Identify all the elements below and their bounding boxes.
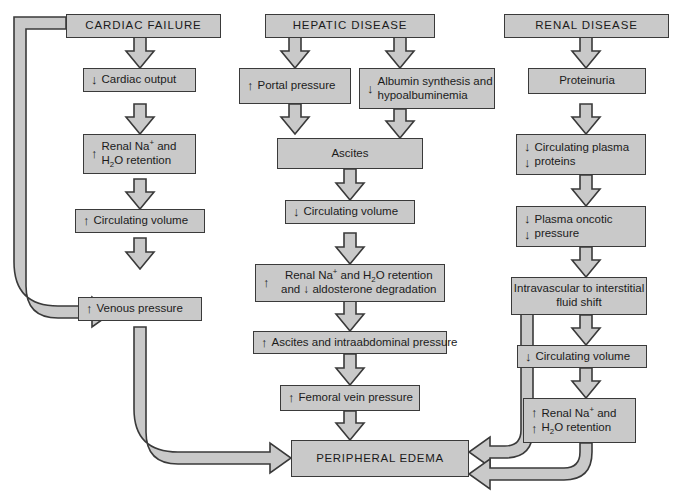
arrow-hepatic-disease-to-albumin-synthesis bbox=[386, 37, 414, 68]
arrow-cardiac-failure-to-cardiac-output bbox=[126, 37, 154, 68]
node-renal-disease[interactable]: RENAL DISEASE bbox=[504, 14, 669, 38]
arrow-portal-pressure-to-ascites bbox=[281, 104, 309, 134]
up-arrow-icon: ↑ bbox=[91, 146, 98, 161]
node-label: Cardiac output bbox=[102, 73, 196, 87]
arrow-circulating-volume-to-venous-pressure bbox=[126, 238, 154, 269]
arrow-renal-na-to-circulating-volume bbox=[126, 179, 154, 209]
node-label: Renal Na+ and H2O retention bbox=[542, 407, 636, 434]
node-venous-pressure[interactable]: ↑ Venous pressure bbox=[78, 297, 202, 321]
node-plasma-oncotic-pressure[interactable]: ↓ ↓ Plasma oncotic pressure bbox=[516, 206, 646, 247]
arrow-renal-na-aldosterone-to-ascites-intraabdominal bbox=[336, 300, 364, 331]
edema-flowchart: CARDIAC FAILURE ↓ Cardiac output ↑ Renal… bbox=[0, 0, 699, 492]
down-arrow-icon: ↓ bbox=[525, 349, 532, 364]
node-circulating-plasma-proteins[interactable]: ↓ ↓ Circulating plasma proteins bbox=[516, 134, 646, 175]
up-arrow-icon: ↑ bbox=[83, 213, 90, 228]
arrow-albumin-synthesis-to-ascites bbox=[386, 109, 414, 138]
down-arrow-icon: ↓ bbox=[293, 204, 300, 219]
arrow-hepatic-disease-to-portal-pressure bbox=[281, 37, 309, 68]
node-renal-na-h2o-retention-cardiac[interactable]: ↑ Renal Na+ and H2O retention bbox=[83, 134, 196, 174]
arrow-oncotic-pressure-to-intravascular-shift bbox=[572, 247, 600, 277]
node-label: Intravascular to interstitial fluid shif… bbox=[512, 282, 646, 309]
node-label: Femoral vein pressure bbox=[299, 391, 420, 405]
up-arrow-icon: ↑ bbox=[261, 335, 268, 350]
node-label: Circulating volume bbox=[536, 350, 647, 364]
node-albumin-synthesis-hypoalbuminemia[interactable]: ↓ Albumin synthesis and hypoalbuminemia bbox=[359, 68, 495, 109]
node-label: Portal pressure bbox=[258, 79, 351, 93]
node-peripheral-edema[interactable]: PERIPHERAL EDEMA bbox=[291, 440, 469, 477]
node-label: Ascites and intraabdominal pressure bbox=[272, 336, 458, 350]
arrow-proteinuria-to-circulating-plasma-proteins bbox=[572, 104, 600, 134]
node-ascites-intraabdominal-pressure[interactable]: ↑ Ascites and intraabdominal pressure bbox=[253, 331, 447, 354]
node-label: Venous pressure bbox=[97, 302, 202, 316]
down-arrow-icon: ↓ ↓ bbox=[524, 139, 531, 170]
arrow-femoral-vein-to-peripheral-edema bbox=[336, 411, 364, 440]
node-label: HEPATIC DISEASE bbox=[290, 19, 411, 33]
node-label: PERIPHERAL EDEMA bbox=[313, 452, 447, 466]
node-label: Proteinuria bbox=[556, 74, 618, 88]
down-arrow-icon: ↓ bbox=[367, 81, 374, 96]
node-label: Renal Na+ and H2O retention and ↓ aldost… bbox=[274, 269, 445, 296]
node-label: RENAL DISEASE bbox=[532, 19, 641, 33]
node-femoral-vein-pressure[interactable]: ↑ Femoral vein pressure bbox=[280, 385, 420, 411]
node-portal-pressure[interactable]: ↑ Portal pressure bbox=[239, 68, 351, 104]
node-ascites[interactable]: Ascites bbox=[277, 138, 423, 169]
arrow-circulating-volume-to-renal-na-right bbox=[572, 368, 600, 398]
node-cardiac-output[interactable]: ↓ Cardiac output bbox=[83, 68, 196, 92]
node-label: Circulating plasma proteins bbox=[535, 141, 646, 168]
arrow-circulating-volume-to-renal-na-aldosterone bbox=[336, 233, 364, 264]
arrow-plasma-proteins-to-oncotic-pressure bbox=[572, 175, 600, 206]
node-proteinuria[interactable]: Proteinuria bbox=[528, 68, 646, 94]
node-renal-na-h2o-aldosterone[interactable]: ↑ Renal Na+ and H2O retention and ↓ aldo… bbox=[255, 264, 445, 302]
up-arrow-icon: ↑ bbox=[247, 78, 254, 93]
node-cardiac-failure[interactable]: CARDIAC FAILURE bbox=[66, 14, 221, 38]
node-label: Plasma oncotic pressure bbox=[535, 213, 646, 240]
up-arrow-icon: ↑ bbox=[86, 301, 93, 316]
arrow-cardiac-output-to-renal-na bbox=[126, 104, 154, 134]
node-label: CARDIAC FAILURE bbox=[82, 19, 204, 33]
node-circulating-volume-increased[interactable]: ↑ Circulating volume bbox=[75, 209, 205, 233]
node-label: Albumin synthesis and hypoalbuminemia bbox=[378, 75, 495, 102]
node-label: Circulating volume bbox=[304, 205, 415, 219]
arrow-renal-disease-to-proteinuria bbox=[572, 37, 600, 68]
up-arrow-icon: ↑ ↑ bbox=[531, 405, 538, 436]
node-intravascular-to-interstitial-fluid-shift[interactable]: Intravascular to interstitial fluid shif… bbox=[511, 277, 647, 315]
node-hepatic-disease[interactable]: HEPATIC DISEASE bbox=[265, 14, 435, 38]
up-arrow-icon: ↑ bbox=[288, 390, 295, 405]
down-arrow-icon: ↓ ↓ bbox=[524, 211, 531, 242]
node-label: Renal Na+ and H2O retention bbox=[102, 140, 196, 167]
node-circulating-volume-decreased-hepatic[interactable]: ↓ Circulating volume bbox=[285, 200, 415, 224]
up-arrow-icon: ↑ bbox=[263, 275, 270, 290]
arrow-ascites-intraabdominal-to-femoral-vein bbox=[336, 354, 364, 385]
node-circulating-volume-decreased-renal[interactable]: ↓ Circulating volume bbox=[517, 345, 647, 368]
down-arrow-icon: ↓ bbox=[91, 72, 98, 87]
arrow-intravascular-shift-to-circulating-volume bbox=[572, 315, 600, 345]
node-label: Circulating volume bbox=[94, 214, 205, 228]
node-renal-na-h2o-retention-renal[interactable]: ↑ ↑ Renal Na+ and H2O retention bbox=[523, 398, 636, 443]
node-label: Ascites bbox=[328, 147, 371, 161]
arrow-ascites-to-circulating-volume bbox=[336, 169, 364, 200]
